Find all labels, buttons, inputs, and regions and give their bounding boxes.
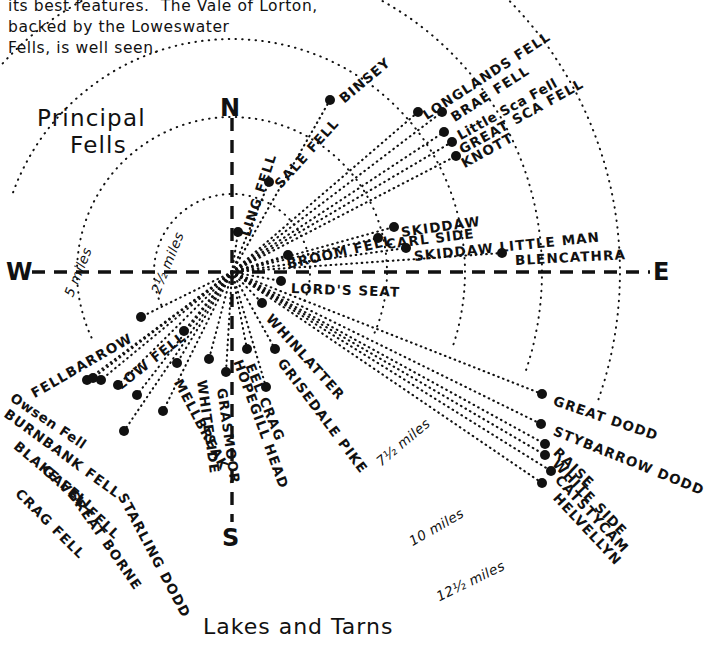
fell-dot[interactable] — [497, 248, 507, 258]
compass-north-label: N — [220, 94, 240, 122]
fell-dot[interactable] — [373, 233, 383, 243]
fell-dot[interactable] — [242, 344, 252, 354]
fell-dot[interactable] — [540, 439, 550, 449]
page-title-line-2: Fells — [70, 132, 127, 158]
fell-dot[interactable] — [136, 312, 146, 322]
intro-line-3: Fells, is well seen. — [8, 38, 159, 59]
fell-dot[interactable] — [179, 326, 189, 336]
fell-dot[interactable] — [325, 95, 335, 105]
fell-dot[interactable] — [536, 419, 546, 429]
fell-dot[interactable] — [119, 426, 129, 436]
fell-dot[interactable] — [439, 127, 449, 137]
sight-line — [232, 272, 275, 349]
fell-dot[interactable] — [172, 358, 182, 368]
fell-dot[interactable] — [221, 367, 231, 377]
fell-dot[interactable] — [389, 222, 399, 232]
fell-dot[interactable] — [276, 276, 286, 286]
fell-dot[interactable] — [113, 380, 123, 390]
fell-dot[interactable] — [447, 137, 457, 147]
distance-arc — [0, 0, 620, 400]
fell-dot[interactable] — [537, 389, 547, 399]
fell-dot[interactable] — [261, 382, 271, 392]
sight-line — [209, 272, 232, 359]
distance-arc — [13, 39, 465, 349]
intro-line-1: its best features. The Vale of Lorton, — [8, 0, 318, 17]
intro-line-2: backed by the Loweswater — [8, 17, 230, 38]
fell-dot[interactable] — [451, 151, 461, 161]
fell-dot[interactable] — [233, 227, 243, 237]
bottom-title: Lakes and Tarns — [203, 614, 393, 639]
fell-dot[interactable] — [401, 243, 411, 253]
fell-dot[interactable] — [437, 107, 447, 117]
fell-dot[interactable] — [546, 466, 556, 476]
compass-south-label: S — [222, 524, 239, 552]
fell-dot[interactable] — [158, 406, 168, 416]
fell-dot[interactable] — [204, 354, 214, 364]
fell-dot[interactable] — [264, 177, 274, 187]
page-title-line-1: Principal — [37, 105, 146, 131]
sight-line — [101, 272, 232, 380]
fell-dot[interactable] — [540, 450, 550, 460]
fell-dot[interactable] — [283, 250, 293, 260]
fell-dot[interactable] — [88, 373, 98, 383]
sight-line — [232, 272, 247, 349]
fell-dot[interactable] — [537, 478, 547, 488]
fell-dot[interactable] — [270, 344, 280, 354]
compass-west-label: W — [6, 258, 32, 286]
fell-dot[interactable] — [132, 390, 142, 400]
fell-dot[interactable] — [257, 298, 267, 308]
fell-dot[interactable] — [413, 107, 423, 117]
distance-arcs-group — [0, 0, 620, 400]
compass-east-label: E — [653, 258, 669, 286]
